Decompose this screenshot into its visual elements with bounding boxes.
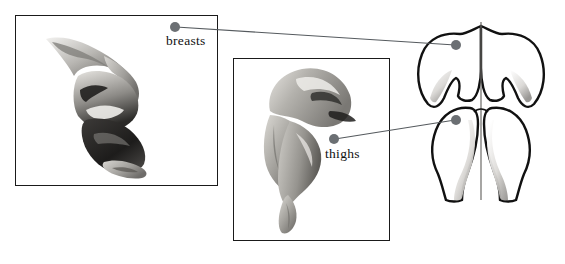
thighs-leader-line	[335, 120, 455, 139]
anatomical-figure: breasts thighs	[0, 0, 565, 264]
breasts-target-dot	[451, 40, 461, 50]
thighs-label: thighs	[325, 146, 360, 162]
thighs-label-dot	[329, 134, 339, 144]
breasts-leader-line	[176, 27, 455, 45]
breasts-label: breasts	[166, 33, 206, 49]
breasts-label-dot	[170, 22, 180, 32]
thighs-target-dot	[451, 115, 461, 125]
leader-lines-layer	[0, 0, 565, 264]
